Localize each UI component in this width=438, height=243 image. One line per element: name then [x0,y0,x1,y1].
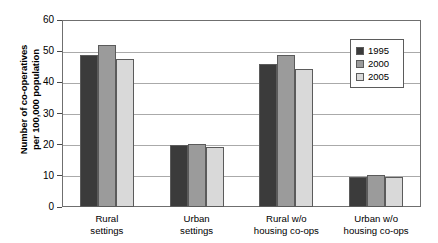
y-tick-label: 40 [14,77,54,87]
legend-swatch-2005 [356,73,364,81]
x-label-line: housing co-ops [316,225,436,237]
legend-label-2000: 2000 [368,59,389,69]
legend-item: 1995 [356,44,399,57]
x-axis-label-group-4: Urban w/ohousing co-ops [316,213,436,237]
bar-2000-group-3 [277,55,295,207]
legend-swatch-1995 [356,47,364,55]
y-tick-label: 30 [14,109,54,119]
y-tick-label: 0 [14,202,54,212]
legend-label-1995: 1995 [368,46,389,56]
y-tick-label: 50 [14,46,54,56]
y-axis-title-line2: per 100,000 population [29,49,40,150]
bar-1995-group-4 [349,177,367,207]
y-axis-title-line1: Number of co-operatives [18,45,29,155]
bar-chart: Number of co-operatives per 100,000 popu… [0,0,438,243]
legend-label-2005: 2005 [368,72,389,82]
bar-1995-group-3 [259,64,277,207]
legend-item: 2005 [356,70,399,83]
legend-item: 2000 [356,57,399,70]
bar-2000-group-2 [188,144,206,207]
bar-1995-group-1 [80,55,98,207]
y-tick-label: 20 [14,140,54,150]
bar-2005-group-1 [116,59,134,207]
y-axis-title: Number of co-operatives per 100,000 popu… [18,5,41,195]
legend-swatch-2000 [356,60,364,68]
bar-2005-group-4 [385,177,403,207]
bar-2000-group-4 [367,175,385,207]
legend: 1995 2000 2005 [350,39,404,88]
bar-2005-group-3 [295,69,313,207]
y-tick-label: 60 [14,15,54,25]
bar-2000-group-1 [98,45,116,207]
bar-1995-group-2 [170,145,188,207]
x-label-line: Urban w/o [316,213,436,225]
y-tick-label: 10 [14,171,54,181]
bar-2005-group-2 [206,147,224,207]
